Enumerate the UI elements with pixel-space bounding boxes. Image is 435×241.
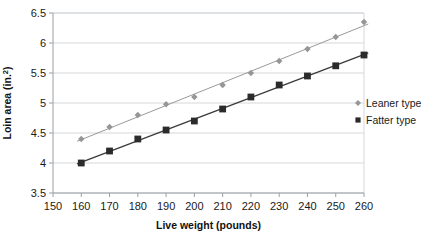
legend-square-marker-icon bbox=[355, 117, 360, 122]
datapoint-square-marker-icon bbox=[163, 127, 170, 134]
x-axis-tick-label: 150 bbox=[44, 200, 62, 212]
y-axis-title: Loin area (in.2) bbox=[1, 66, 13, 139]
datapoint-square-marker-icon bbox=[361, 52, 368, 59]
x-axis-tick-label: 210 bbox=[213, 200, 231, 212]
x-axis-tick-label: 160 bbox=[72, 200, 90, 212]
x-axis-tick-label: 190 bbox=[157, 200, 175, 212]
x-axis-tick-label: 260 bbox=[355, 200, 373, 212]
loin-area-vs-live-weight-scatter-chart: 150160170180190200210220230240250260 3.5… bbox=[0, 0, 435, 241]
y-axis-tick-label: 4 bbox=[40, 157, 46, 169]
y-axis-tick-label: 5 bbox=[40, 97, 46, 109]
y-axis-tick-label: 6 bbox=[40, 37, 46, 49]
x-axis-tick-label: 200 bbox=[185, 200, 203, 212]
x-axis-title: Live weight (pounds) bbox=[156, 219, 261, 231]
x-axis-tick-label: 240 bbox=[298, 200, 316, 212]
legend-item-label: Fatter type bbox=[366, 114, 416, 126]
datapoint-square-marker-icon bbox=[219, 106, 226, 113]
y-axis-tick-label: 3.5 bbox=[31, 187, 46, 199]
datapoint-square-marker-icon bbox=[332, 62, 339, 69]
y-axis-tick-label: 6.5 bbox=[31, 7, 46, 19]
x-axis-tick-label: 230 bbox=[270, 200, 288, 212]
datapoint-square-marker-icon bbox=[106, 148, 113, 155]
x-axis-tick-label: 170 bbox=[100, 200, 118, 212]
legend-item-label: Leaner type bbox=[366, 97, 422, 109]
x-axis-tick-label: 220 bbox=[242, 200, 260, 212]
datapoint-square-marker-icon bbox=[276, 82, 283, 89]
y-axis-tick-label: 4.5 bbox=[31, 127, 46, 139]
datapoint-square-marker-icon bbox=[78, 160, 85, 167]
datapoint-square-marker-icon bbox=[304, 73, 311, 80]
x-axis-tick-label: 250 bbox=[327, 200, 345, 212]
datapoint-square-marker-icon bbox=[134, 136, 141, 143]
x-axis-tick-label: 180 bbox=[129, 200, 147, 212]
chart-container: 150160170180190200210220230240250260 3.5… bbox=[0, 0, 435, 241]
y-axis-tick-label: 5.5 bbox=[31, 67, 46, 79]
datapoint-square-marker-icon bbox=[248, 94, 255, 101]
datapoint-square-marker-icon bbox=[191, 118, 198, 125]
